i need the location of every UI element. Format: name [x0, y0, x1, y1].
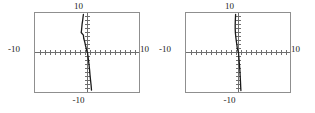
x-axis-min-label: -10 [8, 44, 20, 54]
two-graph-figure: 10 -10 -10 10 [0, 0, 315, 113]
left-graph-panel: 10 -10 -10 10 [0, 0, 157, 113]
x-axis-min-label: -10 [159, 44, 171, 54]
right-graph-panel: 10 -10 -10 10 [157, 0, 314, 113]
y-axis-max-label: 10 [151, 1, 308, 11]
y-axis-min-label: -10 [0, 95, 157, 105]
x-axis-max-label: 10 [291, 44, 300, 54]
x-axis-max-label: 10 [140, 44, 149, 54]
y-axis-min-label: -10 [151, 95, 308, 105]
y-axis-max-label: 10 [0, 1, 157, 11]
